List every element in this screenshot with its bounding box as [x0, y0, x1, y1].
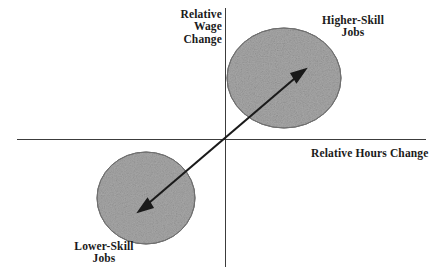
- y-axis-label-line-1: Relative: [152, 8, 222, 20]
- lower-skill-ellipse: [97, 152, 195, 244]
- higher-skill-label-line-2: Jobs: [313, 26, 393, 38]
- lower-skill-jobs-label: Lower-Skill Jobs: [63, 240, 145, 265]
- lower-skill-label-line-1: Lower-Skill: [63, 240, 145, 252]
- lower-skill-label-line-2: Jobs: [63, 252, 145, 264]
- higher-skill-ellipse: [227, 28, 341, 128]
- y-axis-label-line-3: Change: [152, 33, 222, 45]
- trend-arrow: [138, 69, 306, 212]
- x-axis-label-line-1: Relative Hours Change: [311, 147, 429, 159]
- higher-skill-jobs-label: Higher-Skill Jobs: [313, 14, 393, 39]
- higher-skill-label-line-1: Higher-Skill: [313, 14, 393, 26]
- x-axis-label: Relative Hours Change: [311, 147, 429, 159]
- y-axis-label: Relative Wage Change: [152, 8, 222, 45]
- diagram-canvas: Relative Wage Change Relative Hours Chan…: [0, 0, 443, 267]
- y-axis-label-line-2: Wage: [152, 20, 222, 32]
